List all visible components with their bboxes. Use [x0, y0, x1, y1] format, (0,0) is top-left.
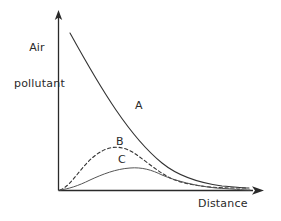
y-axis-label-line-1: Air	[14, 42, 60, 54]
air-pollutant-vs-distance-chart: Air pollutant Distance A B C	[0, 0, 281, 221]
curve-label-b: B	[116, 136, 124, 147]
curve-label-a: A	[135, 100, 143, 111]
curve-c-path	[60, 168, 250, 190]
y-axis-label: Air pollutant	[14, 18, 60, 114]
y-axis-label-line-2: pollutant	[14, 78, 60, 90]
x-axis-label: Distance	[198, 198, 248, 210]
curve-label-c: C	[118, 154, 126, 165]
curve-b-path	[60, 147, 248, 190]
curve-a-path	[70, 33, 249, 188]
x-axis-arrow-icon	[252, 186, 264, 194]
